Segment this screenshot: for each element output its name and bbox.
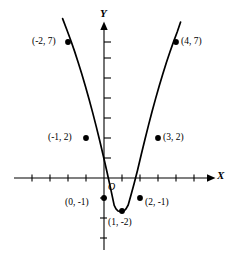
point-0-neg1 [101,195,107,201]
point-3-2 [155,135,161,141]
y-axis-ticks [100,42,111,238]
point-neg1-2 [83,135,89,141]
origin-label: O [108,182,115,192]
data-points [65,39,179,214]
x-axis-label: X [217,170,224,181]
point-label-4-7: (4, 7) [181,37,202,47]
y-axis-label: Y [100,8,107,19]
point-2-neg1 [137,195,143,201]
point-label-0-neg1: (0, -1) [65,198,89,208]
point-label-1-neg2: (1, -2) [108,218,132,228]
parabola-curve [63,19,181,212]
point-label-neg2-7: (-2, 7) [32,37,56,47]
point-1-neg2 [119,208,125,214]
point-label-neg1-2: (-1, 2) [48,133,72,143]
point-4-7 [173,39,179,45]
point-neg2-7 [65,39,71,45]
point-label-3-2: (3, 2) [163,133,184,143]
point-label-2-neg1: (2, -1) [145,198,169,208]
parabola-graph-figure: (-2, 7) (-1, 2) (0, -1) (1, -2) (2, -1) … [0,0,231,262]
y-axis [100,22,107,251]
